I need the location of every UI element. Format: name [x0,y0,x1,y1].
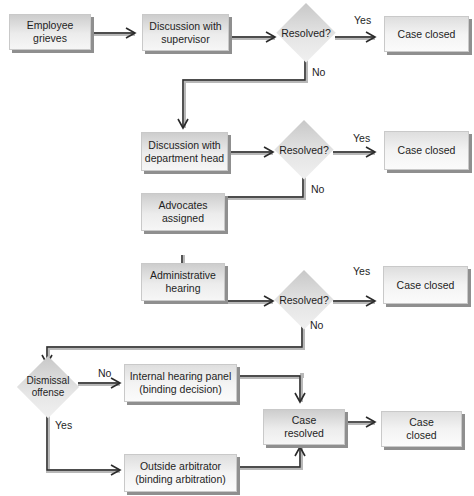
edge-label-no-1: No [312,66,325,78]
decision-resolved-3: Resolved? [274,270,334,330]
node-case-closed-2: Case closed [384,131,469,170]
edge-label-no-2: No [311,183,324,195]
node-case-resolved: Case resolved [263,409,345,445]
edge-label-yes-dismissal: Yes [55,419,72,431]
node-case-closed-1: Case closed [384,16,469,52]
node-case-closed-final: Case closed [381,411,462,447]
decision-label: Resolved? [279,144,329,157]
edge-label-no-dismissal: No [98,367,111,379]
node-employee-grieves: Employee grieves [9,14,91,50]
decision-label: Resolved? [279,294,329,307]
node-outside-arbitrator: Outside arbitrator (binding arbitration) [124,454,237,492]
edge-label-no-3: No [310,319,323,331]
decision-label: Resolved? [281,27,331,40]
node-case-closed-3: Case closed [383,266,468,304]
node-internal-hearing-panel: Internal hearing panel (binding decision… [124,364,237,402]
node-discussion-supervisor: Discussion with supervisor [142,14,229,51]
edge-label-yes-1: Yes [354,14,371,26]
decision-dismissal-offense: Dismissal offense [17,356,79,418]
decision-resolved-2: Resolved? [274,120,334,180]
edge-label-yes-3: Yes [353,265,370,277]
decision-resolved-1: Resolved? [276,3,336,63]
node-advocates-assigned: Advocates assigned [141,193,225,231]
node-discussion-dept-head: Discussion with department head [141,132,228,171]
decision-label: Dismissal offense [27,375,70,399]
edge-label-yes-2: Yes [353,132,370,144]
node-administrative-hearing: Administrative hearing [141,263,225,301]
